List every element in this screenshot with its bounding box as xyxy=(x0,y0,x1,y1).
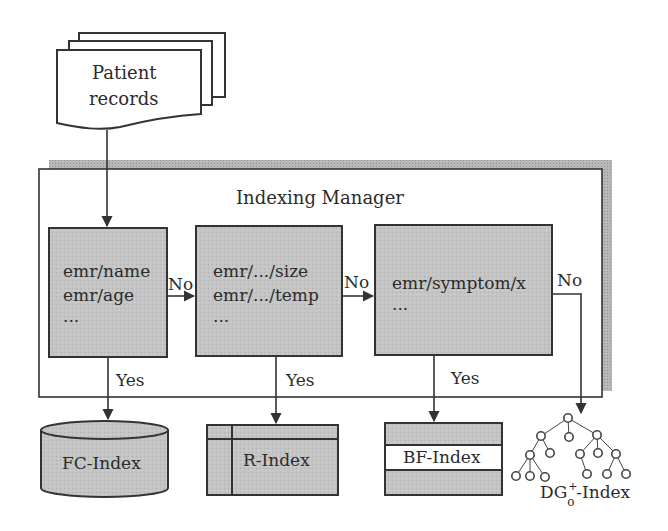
dg-index-sup: + xyxy=(568,481,577,492)
patient-records-label-line1: Patient xyxy=(92,64,157,82)
r-index-label: R-Index xyxy=(243,452,310,469)
rule-3-line-1: emr/symptom/x xyxy=(392,272,526,294)
fc-index-label: FC-Index xyxy=(62,455,141,472)
indexing-manager-title: Indexing Manager xyxy=(236,189,404,207)
rule-1-line-2: emr/age xyxy=(63,284,134,306)
rule-2-line-1: emr/.../size xyxy=(213,260,308,282)
dg-index-tree-icon xyxy=(512,414,630,481)
yes-label-1: Yes xyxy=(116,372,145,389)
dg-index-sub: o xyxy=(567,496,574,508)
rule-2-line-2: emr/.../temp xyxy=(213,284,319,306)
bf-index-label: BF-Index xyxy=(403,449,480,466)
rule-3-line-2: ... xyxy=(392,293,408,315)
yes-label-3: Yes xyxy=(451,370,480,387)
yes-label-2: Yes xyxy=(286,372,315,389)
rule-1-line-3: ... xyxy=(63,305,79,327)
no-label-2: No xyxy=(344,274,369,291)
rule-2-line-3: ... xyxy=(213,305,229,327)
no-label-1: No xyxy=(168,276,193,293)
no-label-3: No xyxy=(557,272,582,289)
diagram-canvas: Patient records Indexing Manager emr/nam… xyxy=(0,0,668,531)
rule-1-line-1: emr/name xyxy=(63,260,150,282)
dg-index-label: DG+o-Index xyxy=(540,484,630,501)
dg-index-base: DG xyxy=(540,482,567,502)
patient-records-label-line2: records xyxy=(89,90,159,108)
dg-index-suffix: -Index xyxy=(576,482,630,502)
